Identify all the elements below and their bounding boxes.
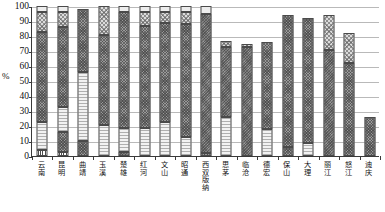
bar-group[interactable] bbox=[237, 7, 257, 156]
bar-segment bbox=[160, 6, 171, 12]
bar-segment bbox=[78, 72, 89, 141]
bar-group[interactable] bbox=[114, 7, 134, 156]
bar-segment bbox=[78, 9, 89, 72]
bar-segment bbox=[200, 153, 211, 156]
bar-group[interactable] bbox=[319, 7, 339, 156]
y-axis-tick-labels: 0102030405060708090100 bbox=[0, 0, 29, 212]
bar-segment bbox=[200, 14, 211, 154]
x-tickmark bbox=[73, 156, 74, 160]
y-tick-label-80: 80 bbox=[20, 32, 30, 42]
y-tick-label-10: 10 bbox=[20, 137, 30, 147]
x-label-11: 德宏 bbox=[262, 161, 271, 176]
x-label-5: 红河 bbox=[139, 161, 148, 176]
bar-segment bbox=[139, 26, 150, 128]
bar-segment bbox=[37, 32, 48, 122]
bar-segment bbox=[262, 129, 273, 156]
stacked-bar[interactable] bbox=[98, 7, 109, 156]
x-tickmark bbox=[360, 156, 361, 160]
bar-group[interactable] bbox=[339, 7, 359, 156]
stacked-bar[interactable] bbox=[241, 7, 252, 156]
bar-segment bbox=[57, 12, 68, 27]
bar-group[interactable] bbox=[73, 7, 93, 156]
stacked-bar[interactable] bbox=[364, 7, 375, 156]
bar-segment bbox=[323, 15, 334, 50]
bar-segment bbox=[57, 132, 68, 152]
bar-segment bbox=[119, 12, 130, 128]
bar-segment bbox=[344, 33, 355, 63]
bar-segment bbox=[57, 152, 68, 157]
bar-segment bbox=[98, 35, 109, 125]
stacked-bar[interactable] bbox=[282, 7, 293, 156]
stacked-bar[interactable] bbox=[160, 7, 171, 156]
stacked-bar-chart: % 0102030405060708090100 云南昆明曲靖玉溪楚雄红河文山昭… bbox=[0, 0, 385, 212]
x-tickmark bbox=[278, 156, 279, 160]
x-tickmark bbox=[93, 156, 94, 160]
stacked-bar[interactable] bbox=[57, 7, 68, 156]
x-tickmark bbox=[257, 156, 258, 160]
bar-segment bbox=[37, 122, 48, 151]
x-tickmark bbox=[298, 156, 299, 160]
stacked-bar[interactable] bbox=[37, 7, 48, 156]
bar-segment bbox=[282, 15, 293, 147]
stacked-bar[interactable] bbox=[180, 7, 191, 156]
x-tickmark bbox=[134, 156, 135, 160]
stacked-bar[interactable] bbox=[139, 7, 150, 156]
bar-segment bbox=[241, 47, 252, 157]
x-tickmark bbox=[52, 156, 53, 160]
x-label-16: 迪庆 bbox=[364, 161, 373, 176]
bar-segment bbox=[37, 150, 48, 156]
bar-group[interactable] bbox=[32, 7, 52, 156]
bar-segment bbox=[139, 128, 150, 157]
bar-group[interactable] bbox=[257, 7, 277, 156]
y-tick-label-100: 100 bbox=[15, 2, 29, 12]
x-label-2: 曲靖 bbox=[78, 161, 87, 176]
bar-group[interactable] bbox=[52, 7, 72, 156]
bar-group[interactable] bbox=[175, 7, 195, 156]
bar-segment bbox=[160, 12, 171, 23]
bar-segment bbox=[57, 107, 68, 133]
stacked-bar[interactable] bbox=[78, 7, 89, 156]
x-label-7: 昭通 bbox=[180, 161, 189, 176]
bar-segment bbox=[221, 117, 232, 156]
bar-segment bbox=[119, 152, 130, 157]
y-tick-label-90: 90 bbox=[20, 17, 30, 27]
stacked-bar[interactable] bbox=[200, 7, 211, 156]
bar-segment bbox=[180, 24, 191, 137]
stacked-bar[interactable] bbox=[344, 7, 355, 156]
stacked-bar[interactable] bbox=[323, 7, 334, 156]
bar-segment bbox=[282, 147, 293, 156]
bar-segment bbox=[180, 6, 191, 12]
bar-segment bbox=[98, 125, 109, 157]
x-label-15: 怒江 bbox=[344, 161, 353, 176]
bar-segment bbox=[160, 23, 171, 122]
bar-segment bbox=[37, 6, 48, 12]
y-tick-label-50: 50 bbox=[20, 77, 30, 87]
bar-group[interactable] bbox=[216, 7, 236, 156]
bar-group[interactable] bbox=[298, 7, 318, 156]
stacked-bar[interactable] bbox=[119, 7, 130, 156]
x-label-13: 大理 bbox=[303, 161, 312, 176]
x-tickmark bbox=[155, 156, 156, 160]
bar-segment bbox=[57, 6, 68, 12]
x-tickmark bbox=[114, 156, 115, 160]
y-tick-label-40: 40 bbox=[20, 92, 30, 102]
stacked-bar[interactable] bbox=[221, 7, 232, 156]
stacked-bar[interactable] bbox=[262, 7, 273, 156]
x-tickmark bbox=[339, 156, 340, 160]
x-label-1: 昆明 bbox=[57, 161, 66, 176]
bar-group[interactable] bbox=[278, 7, 298, 156]
x-label-8: 西双版纳 bbox=[201, 161, 210, 191]
x-label-0: 云南 bbox=[37, 161, 46, 176]
x-tickmark bbox=[175, 156, 176, 160]
bar-segment bbox=[78, 141, 89, 156]
bar-group[interactable] bbox=[134, 7, 154, 156]
stacked-bar[interactable] bbox=[303, 7, 314, 156]
bar-group[interactable] bbox=[360, 7, 380, 156]
bar-group[interactable] bbox=[155, 7, 175, 156]
bar-group[interactable] bbox=[93, 7, 113, 156]
bar-group[interactable] bbox=[196, 7, 216, 156]
bar-segment bbox=[119, 128, 130, 152]
bar-segment bbox=[364, 117, 375, 156]
bar-segment bbox=[139, 6, 150, 12]
bar-segment bbox=[57, 27, 68, 107]
